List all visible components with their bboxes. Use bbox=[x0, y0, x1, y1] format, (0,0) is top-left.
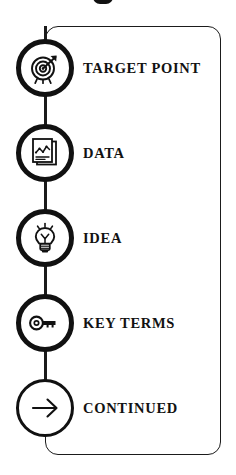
step-node-circle bbox=[16, 124, 74, 182]
step-node-circle bbox=[16, 379, 74, 437]
target-bullseye-arrow-icon bbox=[27, 50, 63, 86]
step-label: CONTINUED bbox=[83, 401, 178, 416]
step-item-key-terms[interactable]: KEY TERMS bbox=[0, 293, 236, 353]
step-label: KEY TERMS bbox=[83, 316, 175, 331]
document-line-chart-icon bbox=[28, 136, 62, 170]
step-label: IDEA bbox=[83, 231, 122, 246]
lightbulb-icon bbox=[28, 221, 62, 255]
step-label: TARGET POINT bbox=[83, 61, 201, 76]
step-node-circle bbox=[16, 39, 74, 97]
step-item-target-point[interactable]: TARGET POINT bbox=[0, 38, 236, 98]
arrow-right-icon bbox=[27, 390, 63, 426]
step-node-circle bbox=[16, 294, 74, 352]
step-item-idea[interactable]: IDEA bbox=[0, 208, 236, 268]
step-item-continued[interactable]: CONTINUED bbox=[0, 378, 236, 438]
key-icon bbox=[27, 305, 63, 341]
step-node-circle bbox=[16, 209, 74, 267]
cropped-title-remnant bbox=[93, 0, 113, 4]
infographic-canvas: TARGET POINT DATA bbox=[0, 0, 236, 475]
step-item-data[interactable]: DATA bbox=[0, 123, 236, 183]
step-label: DATA bbox=[83, 146, 125, 161]
